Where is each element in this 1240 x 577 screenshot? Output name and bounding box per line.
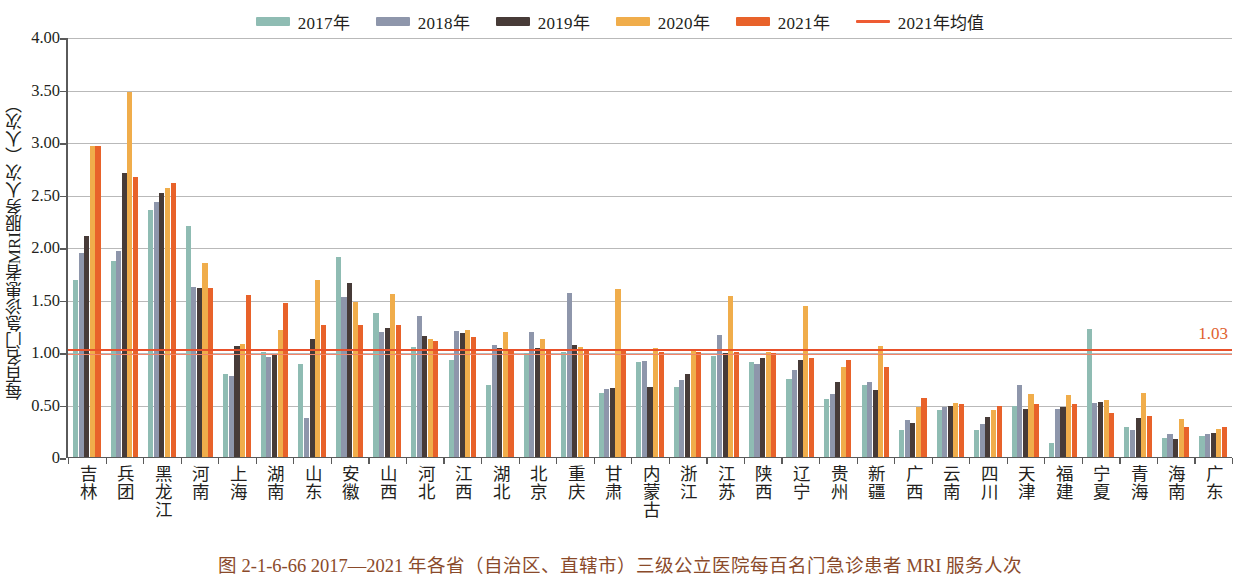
x-label-text: 甘肃 xyxy=(603,465,622,501)
legend-swatch-2018年 xyxy=(376,17,410,26)
x-tick-mark xyxy=(1232,458,1233,464)
y-tick-label: 3.00 xyxy=(31,133,60,153)
legend-label-2020年: 2020年 xyxy=(658,9,710,34)
y-tick-mark xyxy=(60,301,66,303)
legend-label-2017年: 2017年 xyxy=(298,9,350,34)
x-label-text: 河北 xyxy=(415,465,434,501)
legend-swatch-2017年 xyxy=(256,17,290,26)
x-label-安徽[interactable]: 安徽 xyxy=(331,462,369,548)
legend-swatch-2021年均值 xyxy=(856,20,890,23)
y-tick-label: 2.00 xyxy=(31,238,60,258)
legend-swatch-2019年 xyxy=(496,17,530,26)
legend-swatch-2021年 xyxy=(736,17,770,26)
average-value-label: 1.03 xyxy=(1198,324,1228,344)
legend-item-2018年[interactable]: 2018年 xyxy=(376,9,470,34)
y-axis-tick-labels: 4.003.503.002.502.001.501.000.500 xyxy=(24,38,64,458)
x-label-天津[interactable]: 天津 xyxy=(1007,462,1045,548)
y-tick-mark xyxy=(60,38,66,40)
x-label-text: 浙江 xyxy=(678,465,697,501)
x-label-云南[interactable]: 云南 xyxy=(932,462,970,548)
x-label-湖南[interactable]: 湖南 xyxy=(256,462,294,548)
x-label-四川[interactable]: 四川 xyxy=(969,462,1007,548)
x-label-text: 北京 xyxy=(528,465,547,501)
y-tick-mark xyxy=(60,196,66,198)
average-line-layer xyxy=(66,38,1232,458)
legend-label-2021年: 2021年 xyxy=(778,9,830,34)
average-line-shadow xyxy=(66,354,1232,356)
x-label-海南[interactable]: 海南 xyxy=(1157,462,1195,548)
x-label-山东[interactable]: 山东 xyxy=(293,462,331,548)
legend-label-2019年: 2019年 xyxy=(538,9,590,34)
x-label-甘肃[interactable]: 甘肃 xyxy=(594,462,632,548)
x-label-吉林[interactable]: 吉林 xyxy=(68,462,106,548)
average-line xyxy=(66,349,1232,352)
x-label-内蒙古[interactable]: 内蒙古 xyxy=(631,462,669,548)
x-label-text: 内蒙古 xyxy=(641,465,660,519)
x-label-text: 广东 xyxy=(1204,465,1223,501)
x-label-贵州[interactable]: 贵州 xyxy=(819,462,857,548)
x-label-text: 青海 xyxy=(1129,465,1148,501)
x-label-湖北[interactable]: 湖北 xyxy=(481,462,519,548)
x-label-福建[interactable]: 福建 xyxy=(1044,462,1082,548)
x-label-text: 四川 xyxy=(979,465,998,501)
x-label-辽宁[interactable]: 辽宁 xyxy=(781,462,819,548)
figure-caption: 图 2-1-6-66 2017—2021 年各省（自治区、直辖市）三级公立医院每… xyxy=(0,551,1240,577)
x-axis-category-labels: 吉林兵团黑龙江河南上海湖南山东安徽山西河北江西湖北北京重庆甘肃内蒙古浙江江苏陕西… xyxy=(66,462,1232,548)
legend-label-2021年均值: 2021年均值 xyxy=(898,9,984,34)
x-label-text: 山东 xyxy=(303,465,322,501)
x-label-北京[interactable]: 北京 xyxy=(519,462,557,548)
x-label-text: 天津 xyxy=(1016,465,1035,501)
y-tick-label: 4.00 xyxy=(31,28,60,48)
x-label-江西[interactable]: 江西 xyxy=(443,462,481,548)
legend-item-2017年[interactable]: 2017年 xyxy=(256,9,350,34)
x-label-text: 新疆 xyxy=(866,465,885,501)
legend-swatch-2020年 xyxy=(616,17,650,26)
y-tick-mark xyxy=(60,143,66,145)
legend-item-2019年[interactable]: 2019年 xyxy=(496,9,590,34)
x-label-text: 湖南 xyxy=(265,465,284,501)
x-label-江苏[interactable]: 江苏 xyxy=(706,462,744,548)
x-label-text: 贵州 xyxy=(828,465,847,501)
plot-axes: 1.03 xyxy=(66,38,1232,458)
x-label-text: 陕西 xyxy=(753,465,772,501)
x-label-text: 上海 xyxy=(228,465,247,501)
x-label-河北[interactable]: 河北 xyxy=(406,462,444,548)
x-label-河南[interactable]: 河南 xyxy=(181,462,219,548)
y-tick-label: 0 xyxy=(52,448,60,468)
x-label-宁夏[interactable]: 宁夏 xyxy=(1082,462,1120,548)
x-label-山西[interactable]: 山西 xyxy=(368,462,406,548)
y-tick-mark xyxy=(60,406,66,408)
y-tick-mark xyxy=(60,458,66,460)
legend-item-2021年[interactable]: 2021年 xyxy=(736,9,830,34)
legend-item-2020年[interactable]: 2020年 xyxy=(616,9,710,34)
x-label-兵团[interactable]: 兵团 xyxy=(106,462,144,548)
x-label-text: 兵团 xyxy=(115,465,134,501)
x-label-text: 黑龙江 xyxy=(153,465,172,519)
x-label-上海[interactable]: 上海 xyxy=(218,462,256,548)
y-tick-label: 2.50 xyxy=(31,186,60,206)
x-label-text: 福建 xyxy=(1054,465,1073,501)
x-label-text: 云南 xyxy=(941,465,960,501)
y-axis-line xyxy=(66,38,68,458)
y-tick-mark xyxy=(60,91,66,93)
x-label-新疆[interactable]: 新疆 xyxy=(856,462,894,548)
x-label-浙江[interactable]: 浙江 xyxy=(669,462,707,548)
x-label-广东[interactable]: 广东 xyxy=(1194,462,1232,548)
x-label-陕西[interactable]: 陕西 xyxy=(744,462,782,548)
y-axis-title: 每百名门急诊患者MRI服务人次（人次） xyxy=(2,38,26,458)
x-label-text: 河南 xyxy=(190,465,209,501)
y-axis-title-text: 每百名门急诊患者MRI服务人次（人次） xyxy=(2,96,27,400)
x-label-黑龙江[interactable]: 黑龙江 xyxy=(143,462,181,548)
x-label-广西[interactable]: 广西 xyxy=(894,462,932,548)
legend-label-2018年: 2018年 xyxy=(418,9,470,34)
x-label-text: 宁夏 xyxy=(1091,465,1110,501)
x-label-text: 江苏 xyxy=(716,465,735,501)
x-label-重庆[interactable]: 重庆 xyxy=(556,462,594,548)
legend-item-2021年均值[interactable]: 2021年均值 xyxy=(856,9,984,34)
y-tick-label: 3.50 xyxy=(31,81,60,101)
x-label-text: 江西 xyxy=(453,465,472,501)
x-label-text: 吉林 xyxy=(77,465,96,501)
plot-wrapper: 每百名门急诊患者MRI服务人次（人次） 4.003.503.002.502.00… xyxy=(0,38,1240,468)
x-label-青海[interactable]: 青海 xyxy=(1119,462,1157,548)
